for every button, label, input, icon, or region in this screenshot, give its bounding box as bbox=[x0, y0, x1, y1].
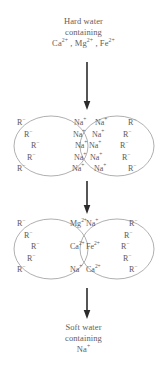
bottom-caption: Soft water containing Na+ bbox=[0, 322, 167, 355]
ion-item: Na+ bbox=[89, 117, 107, 129]
arrow-bottom bbox=[83, 288, 91, 319]
ion-item: Ca2+ bbox=[86, 264, 101, 276]
ion-item: Na+ bbox=[86, 218, 101, 230]
bottom-caption-line-2: containing bbox=[0, 333, 167, 344]
ion-mg: Mg2+ bbox=[75, 38, 93, 48]
ion-spacer bbox=[86, 253, 101, 265]
resin-item: R− bbox=[17, 218, 39, 230]
ion-fe: Fe2+ bbox=[100, 38, 115, 48]
top-caption-line-1: Hard water bbox=[0, 16, 167, 27]
resin-item: R− bbox=[120, 163, 136, 175]
ion-item: Na+ bbox=[72, 129, 87, 141]
stage1-left-sodium-column: Na+ Na+ Na+ Na+ Na+ bbox=[72, 117, 87, 175]
resin-item: R− bbox=[17, 152, 39, 164]
ion-item: Na+ bbox=[89, 152, 107, 164]
ion-item: Na+ bbox=[72, 163, 87, 175]
ion-item: Na+ bbox=[72, 140, 87, 152]
resin-item: R− bbox=[120, 129, 136, 141]
top-caption-ions: Ca2+ , Mg2+ , Fe2+ bbox=[0, 38, 167, 49]
ion-spacer bbox=[86, 230, 101, 242]
ion-spacer bbox=[70, 253, 87, 265]
resin-stage-1: R− R− R− R− R− Na+ Na+ Na+ Na+ Na+ Na+ N… bbox=[0, 113, 167, 183]
resin-item: R− bbox=[121, 241, 137, 253]
stage2-middle-ion-column: Na+ Fe2+ Ca2+ bbox=[86, 218, 101, 276]
top-caption: Hard water containing Ca2+ , Mg2+ , Fe2+ bbox=[0, 16, 167, 49]
ion-item: Fe2+ bbox=[86, 241, 101, 253]
resin-item: R− bbox=[120, 152, 136, 164]
resin-item: R− bbox=[17, 264, 39, 276]
diagram-canvas: Hard water containing Ca2+ , Mg2+ , Fe2+… bbox=[0, 0, 167, 369]
stage2-left-ion-column: Mg2+ Ca2+ Na+ bbox=[70, 218, 87, 276]
resin-item: R− bbox=[17, 140, 39, 152]
stage1-right-sodium-column: Na+ Na+ Na+ Na+ Na+ bbox=[89, 117, 107, 175]
ion-item: Na+ bbox=[70, 264, 87, 276]
ion-ca: Ca2+ bbox=[52, 38, 68, 48]
resin-item: R− bbox=[17, 117, 39, 129]
ion-na: Na+ bbox=[77, 344, 90, 354]
bottom-caption-line-1: Soft water bbox=[0, 322, 167, 333]
resin-item: R− bbox=[17, 241, 39, 253]
arrow-top bbox=[83, 62, 91, 110]
stage2-right-resin-column: R− R− R− R− R− bbox=[121, 218, 137, 276]
ion-item: Ca2+ bbox=[70, 241, 87, 253]
ion-item: Na+ bbox=[89, 129, 107, 141]
arrow-middle bbox=[83, 181, 91, 214]
resin-item: R− bbox=[120, 140, 136, 152]
resin-stage-2: R− R− R− R− R− Mg2+ Ca2+ Na+ Na+ Fe2+ Ca… bbox=[0, 214, 167, 288]
ion-sep-1: , bbox=[68, 38, 75, 48]
resin-item: R− bbox=[121, 230, 137, 242]
resin-item: R− bbox=[121, 218, 137, 230]
stage1-right-resin-column: R− R− R− R− R− bbox=[120, 117, 136, 175]
resin-item: R− bbox=[17, 230, 39, 242]
stage2-left-resin-column: R− R− R− R− R− bbox=[17, 218, 39, 276]
ion-item: Mg2+ bbox=[70, 218, 87, 230]
resin-item: R− bbox=[17, 163, 39, 175]
ion-item: Na+ bbox=[72, 152, 87, 164]
ion-item: Na+ bbox=[72, 117, 87, 129]
top-caption-line-2: containing bbox=[0, 27, 167, 38]
ion-spacer bbox=[70, 230, 87, 242]
resin-item: R− bbox=[17, 129, 39, 141]
resin-item: R− bbox=[120, 117, 136, 129]
ion-item: Na+ bbox=[89, 163, 107, 175]
resin-item: R− bbox=[121, 253, 137, 265]
ion-item: Na+ bbox=[89, 140, 107, 152]
bottom-caption-ions: Na+ bbox=[0, 344, 167, 355]
stage1-left-resin-column: R− R− R− R− R− bbox=[17, 117, 39, 175]
ion-sep-2: , bbox=[93, 38, 100, 48]
resin-item: R− bbox=[17, 253, 39, 265]
resin-item: R− bbox=[121, 264, 137, 276]
